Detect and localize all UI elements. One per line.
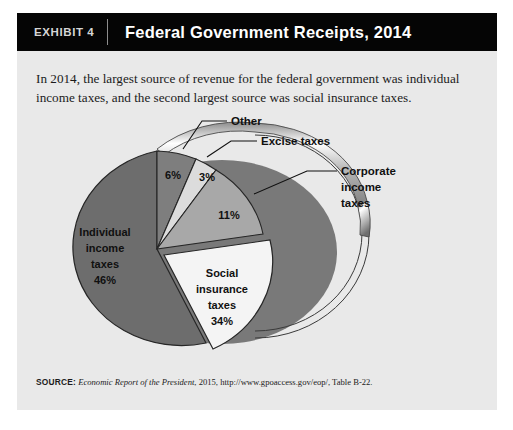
- label-social-line1: Social: [206, 267, 238, 279]
- exhibit-number-label: EXHIBIT 4: [17, 26, 107, 38]
- label-other: Other: [231, 115, 262, 127]
- label-individual-line1: Individual: [79, 226, 130, 238]
- leader-line-excise: [207, 141, 257, 157]
- source-publication: Economic Report of the President: [78, 377, 194, 387]
- label-individual-line2: income: [86, 242, 125, 254]
- exhibit-body-panel: In 2014, the largest source of revenue f…: [17, 51, 497, 410]
- source-line: SOURCE: Economic Report of the President…: [36, 377, 486, 387]
- label-corporate-line2: income: [341, 181, 381, 193]
- label-other-percent: 6%: [165, 169, 181, 181]
- label-corporate-line1: Corporate: [341, 165, 396, 177]
- pie-chart: Other Excise taxes Corporate income taxe…: [17, 109, 497, 379]
- source-label: SOURCE:: [36, 377, 76, 387]
- label-corporate-line3: taxes: [341, 197, 370, 209]
- label-individual-percent: 46%: [94, 274, 116, 286]
- caption-text: In 2014, the largest source of revenue f…: [36, 69, 473, 107]
- label-social-line3: taxes: [208, 299, 236, 311]
- exhibit-title: Federal Government Receipts, 2014: [108, 23, 411, 42]
- label-individual-line3: taxes: [91, 258, 119, 270]
- pie-chart-svg: Other Excise taxes Corporate income taxe…: [17, 109, 497, 379]
- label-corporate-percent: 11%: [218, 209, 240, 221]
- label-excise: Excise taxes: [261, 135, 330, 147]
- exhibit-figure: EXHIBIT 4 Federal Government Receipts, 2…: [0, 0, 513, 430]
- label-excise-percent: 3%: [199, 171, 215, 183]
- label-social-line2: insurance: [196, 283, 248, 295]
- label-social-percent: 34%: [211, 315, 233, 327]
- source-rest: , 2015, http://www.gpoaccess.gov/eop/, T…: [194, 377, 372, 387]
- exhibit-header: EXHIBIT 4 Federal Government Receipts, 2…: [17, 13, 497, 51]
